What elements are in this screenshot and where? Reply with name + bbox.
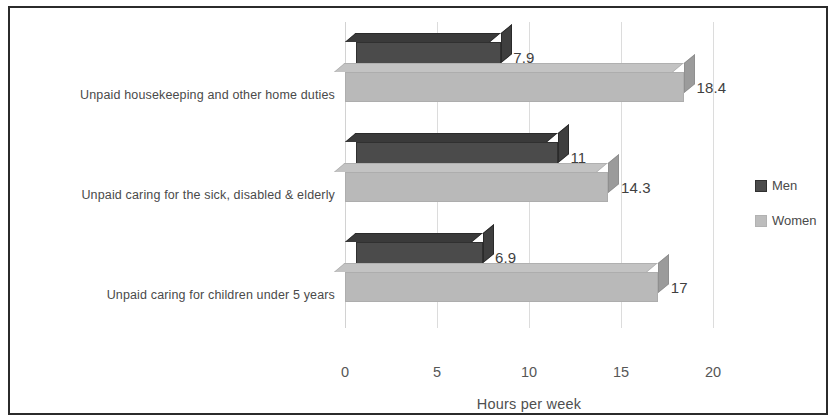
chart-legend: Men Women [755,178,817,248]
legend-swatch-icon-men [755,180,767,192]
bar-side-face [684,54,695,93]
legend-label-men: Men [772,178,797,193]
legend-item-men[interactable]: Men [755,178,817,193]
bar-women-2[interactable]: 17 [345,272,658,302]
category-label-1: Unpaid caring for the sick, disabled & e… [5,188,335,202]
x-tick-20: 20 [705,364,721,380]
x-tick-10: 10 [521,364,537,380]
bar-group-1: 11 14.3 [345,134,713,220]
bar-value-label: 17 [671,279,688,296]
chart-container: Unpaid housekeeping and other home dutie… [0,0,835,418]
x-tick-15: 15 [613,364,629,380]
gridline-20 [713,22,714,328]
bar-side-face [608,154,619,193]
bar-front-face [345,172,608,202]
bar-value-label: 18.4 [697,79,727,96]
category-axis: Unpaid housekeeping and other home dutie… [0,28,345,328]
legend-swatch-icon-women [755,215,767,227]
legend-label-women: Women [772,213,817,228]
bar-top-face [334,263,658,272]
x-tick-5: 5 [433,364,441,380]
bar-women-0[interactable]: 18.4 [345,72,684,102]
bar-group-0: 7.9 18.4 [345,34,713,120]
bar-top-face [334,163,608,172]
bar-top-face [334,63,683,72]
bar-value-label: 14.3 [621,179,651,196]
legend-item-women[interactable]: Women [755,213,817,228]
category-label-0: Unpaid housekeeping and other home dutie… [5,88,335,102]
plot-area: 7.9 18.4 11 14.3 [345,28,713,328]
bar-side-face [483,224,494,263]
bar-front-face [345,272,658,302]
bar-group-2: 6.9 17 [345,234,713,320]
bar-top-face [345,33,501,42]
bar-side-face [501,24,512,63]
bar-front-face [345,72,684,102]
x-axis-title: Hours per week [345,396,713,412]
bar-side-face [558,124,569,163]
bar-side-face [658,254,669,293]
category-label-2: Unpaid caring for children under 5 years [5,288,335,302]
bar-top-face [345,133,558,142]
x-tick-0: 0 [341,364,349,380]
bar-top-face [345,233,483,242]
bar-women-1[interactable]: 14.3 [345,172,608,202]
